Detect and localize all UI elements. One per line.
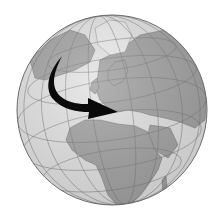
globe-illustration bbox=[0, 0, 221, 215]
